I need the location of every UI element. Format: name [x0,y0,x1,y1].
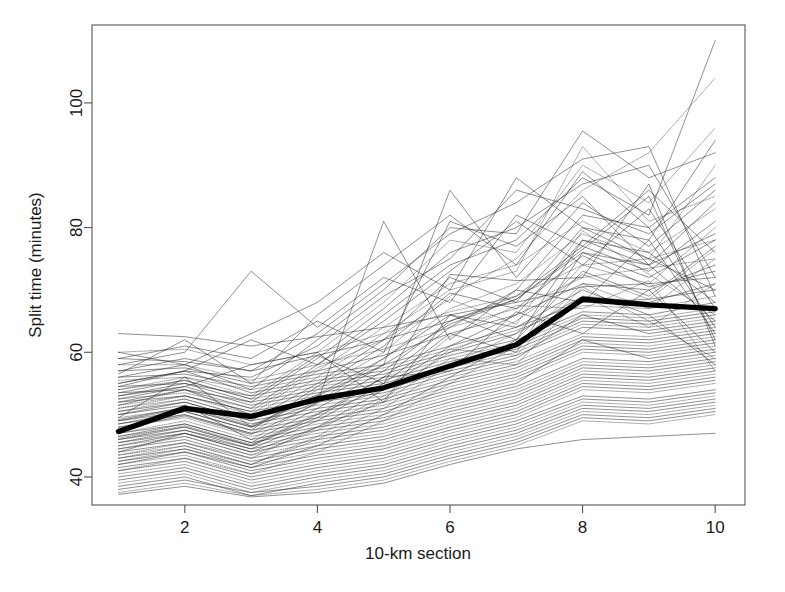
y-tick-label: 60 [67,343,86,362]
series-lines-group [119,41,716,497]
x-axis-title: 10-km section [365,544,471,563]
x-tick-label: 6 [445,518,454,537]
y-axis-title: Split time (minutes) [26,192,45,337]
spaghetti-chart: 406080100 246810 10-km section Split tim… [0,0,785,592]
y-tick-label: 40 [67,467,86,486]
x-tick-label: 8 [578,518,587,537]
runner-split-line [119,246,716,467]
runner-split-line [119,259,716,474]
y-axis-ticks: 406080100 [67,89,92,487]
y-tick-label: 100 [67,89,86,117]
y-tick-label: 80 [67,218,86,237]
runner-split-line [119,256,716,431]
x-tick-label: 10 [706,518,725,537]
runner-split-line [119,355,716,445]
figure-canvas: 406080100 246810 10-km section Split tim… [0,0,785,592]
runner-split-line [119,352,716,442]
runner-split-line [119,383,716,473]
x-tick-label: 4 [313,518,322,537]
runner-split-line [119,371,716,461]
x-tick-label: 2 [180,518,189,537]
x-axis-ticks: 246810 [180,505,725,537]
runner-split-line [119,41,716,409]
